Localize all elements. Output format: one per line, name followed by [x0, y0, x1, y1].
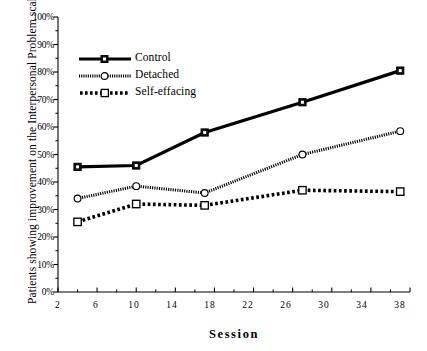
data-point-marker [133, 200, 140, 207]
data-point-marker [201, 190, 208, 197]
chart-figure: Patients showing improvement on the Inte… [0, 0, 427, 351]
data-point-marker-center [301, 101, 304, 104]
data-point-marker-center [135, 164, 138, 167]
series-line-control [78, 71, 401, 167]
series-line-self-effacing [78, 190, 401, 222]
data-point-marker [299, 187, 306, 194]
data-point-marker [74, 218, 81, 225]
data-point-marker-center [203, 131, 206, 134]
data-point-marker [201, 202, 208, 209]
data-point-marker [133, 183, 140, 190]
data-point-marker-center [76, 165, 79, 168]
plot-area [0, 0, 427, 351]
data-point-marker [397, 188, 404, 195]
data-point-marker [397, 128, 404, 135]
data-point-marker [74, 195, 81, 202]
data-point-marker-center [399, 69, 402, 72]
data-point-marker [299, 151, 306, 158]
